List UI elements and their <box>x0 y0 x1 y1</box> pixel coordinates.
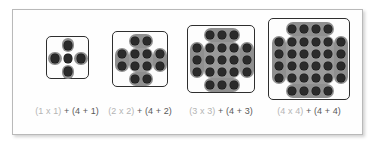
figure-4-caption-square-term: (4 x 4) <box>277 106 303 116</box>
figure-2-outline-box <box>112 31 168 87</box>
figure-3-caption-sum-term: + (4 + 3) <box>215 106 253 116</box>
figure-2-caption-square-term: (2 x 2) <box>108 106 134 116</box>
figure-4 <box>259 10 359 96</box>
figure-1-caption: (1 x 1) + (4 + 1) <box>27 104 107 118</box>
figure-1 <box>27 10 107 96</box>
figure-4-outline-box <box>268 18 350 100</box>
figure-1-outline-box <box>46 36 89 79</box>
figure-1-top-dot <box>64 41 73 50</box>
figure-1-center-dot <box>64 54 73 63</box>
figure-2 <box>97 10 183 96</box>
figures-row <box>13 10 362 96</box>
figure-1-right-dot <box>77 54 86 63</box>
figure-1-caption-square-term: (1 x 1) <box>35 106 61 116</box>
captions-row: (1 x 1) + (4 + 1)(2 x 2) + (4 + 2)(3 x 3… <box>13 104 362 122</box>
figure-4-caption: (4 x 4) + (4 + 4) <box>259 104 359 118</box>
figure-3-outline-box <box>187 25 255 93</box>
diagram-panel: (1 x 1) + (4 + 1)(2 x 2) + (4 + 2)(3 x 3… <box>12 9 363 135</box>
figure-3-caption-square-term: (3 x 3) <box>189 106 215 116</box>
figure-3-caption: (3 x 3) + (4 + 3) <box>175 104 267 118</box>
figure-2-caption: (2 x 2) + (4 + 2) <box>97 104 183 118</box>
figure-4-caption-sum-term: + (4 + 4) <box>303 106 341 116</box>
screenshot-root: (1 x 1) + (4 + 1)(2 x 2) + (4 + 2)(3 x 3… <box>0 0 379 149</box>
figure-2-caption-sum-term: + (4 + 2) <box>134 106 172 116</box>
figure-1-left-dot <box>51 54 60 63</box>
figure-3 <box>175 10 267 96</box>
figure-1-caption-sum-term: + (4 + 1) <box>61 106 99 116</box>
figure-1-bottom-dot <box>64 67 73 76</box>
